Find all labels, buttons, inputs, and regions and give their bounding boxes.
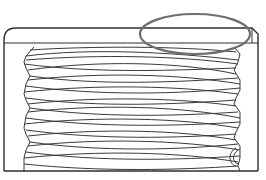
highlight-ellipse: [140, 14, 250, 54]
thread-diagram: Threaded part section drawing with highl…: [0, 0, 266, 180]
thread-drawing-svg: [0, 0, 266, 180]
thread-helix: [24, 47, 240, 171]
